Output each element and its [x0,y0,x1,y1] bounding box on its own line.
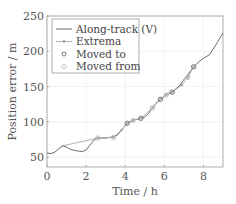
y-tick-label: 150 [23,81,44,94]
point-extrema [181,84,183,86]
x-tick-label: 2 [83,170,90,183]
point-extrema [112,136,114,138]
x-tick-label: 6 [161,170,168,183]
legend: Along-track (V)ExtremaMoved toMoved from [52,19,157,73]
chart: 02468 50100150200250 Time / h Position e… [0,0,236,204]
x-tick-label: 4 [122,170,129,183]
point-extrema [151,107,153,109]
point-extrema [187,76,189,78]
point-extrema [159,98,161,100]
point-extrema [192,66,194,68]
point-extrema [126,122,128,124]
y-tick-label: 250 [23,10,44,23]
legend-label-along-track-v: Along-track (V) [75,23,157,35]
point-extrema [120,129,122,131]
point-extrema [61,145,63,147]
point-extrema [165,94,167,96]
y-axis-ticks: 50100150200250 [23,10,49,164]
y-tick-label: 50 [30,151,44,164]
y-tick-label: 200 [23,45,44,58]
series-line-extrema [63,67,194,146]
legend-marker-extrema [63,40,66,43]
x-tick-label: 0 [44,170,51,183]
x-axis-label: Time / h [112,185,158,198]
x-axis-ticks: 02468 [44,165,207,183]
point-extrema [132,119,134,121]
legend-label-extrema: Extrema [76,35,121,47]
y-tick-label: 100 [23,116,44,129]
point-extrema [97,137,99,139]
x-tick-label: 8 [200,170,207,183]
point-extrema [171,91,173,93]
legend-label-moved-to: Moved to [76,48,126,60]
y-axis-label: Position error / m [6,42,19,140]
point-extrema [140,117,142,119]
legend-label-moved-from: Moved from [76,60,141,72]
